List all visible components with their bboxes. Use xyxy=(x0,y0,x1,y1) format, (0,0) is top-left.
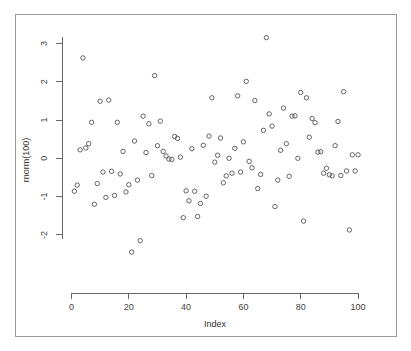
data-point xyxy=(307,135,311,139)
y-tick-label: 1 xyxy=(39,117,49,122)
y-tick-label: -2 xyxy=(39,231,49,239)
data-point xyxy=(273,204,277,208)
data-point xyxy=(224,174,228,178)
y-axis-title: rnorm(100) xyxy=(21,138,31,183)
data-point xyxy=(215,153,219,157)
data-point xyxy=(81,56,85,60)
data-point xyxy=(293,114,297,118)
data-point xyxy=(284,142,288,146)
data-point xyxy=(170,157,174,161)
x-axis-title: Index xyxy=(204,319,227,329)
data-point xyxy=(109,169,113,173)
data-point xyxy=(270,124,274,128)
y-tick-label: -1 xyxy=(39,193,49,201)
data-point xyxy=(190,147,194,151)
data-point xyxy=(178,155,182,159)
data-point xyxy=(218,136,222,140)
x-tick-label: 0 xyxy=(69,302,74,312)
data-point xyxy=(244,79,248,83)
data-point xyxy=(301,219,305,223)
data-point xyxy=(144,150,148,154)
data-point xyxy=(112,193,116,197)
data-point xyxy=(356,153,360,157)
data-points-group xyxy=(72,35,360,254)
data-point xyxy=(238,170,242,174)
data-point xyxy=(138,238,142,242)
data-point xyxy=(296,156,300,160)
data-point xyxy=(104,195,108,199)
data-point xyxy=(198,201,202,205)
data-point xyxy=(150,173,154,177)
data-point xyxy=(310,116,314,120)
data-point xyxy=(278,148,282,152)
data-point xyxy=(129,250,133,254)
data-point xyxy=(121,149,125,153)
data-point xyxy=(195,214,199,218)
data-point xyxy=(187,199,191,203)
data-point xyxy=(75,183,79,187)
y-tick-label: 0 xyxy=(39,156,49,161)
data-point xyxy=(101,170,105,174)
data-point xyxy=(339,173,343,177)
data-point xyxy=(227,156,231,160)
data-point xyxy=(161,149,165,153)
x-tick-label: 20 xyxy=(124,302,134,312)
y-axis-group: -2-10123 xyxy=(39,37,62,240)
data-point xyxy=(321,171,325,175)
y-tick-label: 2 xyxy=(39,79,49,84)
data-point xyxy=(344,169,348,173)
data-point xyxy=(304,96,308,100)
data-point xyxy=(281,106,285,110)
data-point xyxy=(158,119,162,123)
data-point xyxy=(98,99,102,103)
data-point xyxy=(221,181,225,185)
data-point xyxy=(207,134,211,138)
data-point xyxy=(152,73,156,77)
data-point xyxy=(350,153,354,157)
data-point xyxy=(141,114,145,118)
data-point xyxy=(235,94,239,98)
data-point xyxy=(124,190,128,194)
data-point xyxy=(247,159,251,163)
x-tick-label: 80 xyxy=(296,302,306,312)
data-point xyxy=(192,189,196,193)
data-point xyxy=(84,146,88,150)
data-point xyxy=(78,148,82,152)
data-point xyxy=(95,181,99,185)
data-point xyxy=(324,166,328,170)
data-point xyxy=(258,172,262,176)
data-point xyxy=(118,172,122,176)
data-point xyxy=(333,143,337,147)
data-point xyxy=(135,178,139,182)
data-point xyxy=(132,139,136,143)
data-point xyxy=(184,189,188,193)
x-tick-label: 40 xyxy=(181,302,191,312)
data-point xyxy=(92,202,96,206)
data-point xyxy=(241,140,245,144)
data-point xyxy=(107,98,111,102)
data-point xyxy=(264,35,268,39)
data-point xyxy=(267,112,271,116)
data-point xyxy=(210,96,214,100)
x-tick-label: 60 xyxy=(238,302,248,312)
data-point xyxy=(347,228,351,232)
data-point xyxy=(72,189,76,193)
x-axis-group: 020406080100 xyxy=(69,293,366,312)
data-point xyxy=(115,120,119,124)
data-point xyxy=(253,98,257,102)
data-point xyxy=(353,169,357,173)
data-point xyxy=(250,166,254,170)
data-point xyxy=(155,143,159,147)
data-point xyxy=(341,89,345,93)
data-point xyxy=(213,160,217,164)
data-point xyxy=(233,146,237,150)
data-point xyxy=(299,90,303,94)
data-point xyxy=(276,178,280,182)
scatter-plot: -2-10123 020406080100 Index rnorm(100) xyxy=(0,0,411,351)
data-point xyxy=(89,120,93,124)
x-tick-label: 100 xyxy=(350,302,365,312)
data-point xyxy=(204,194,208,198)
data-point xyxy=(287,174,291,178)
data-point xyxy=(261,128,265,132)
data-point xyxy=(127,183,131,187)
